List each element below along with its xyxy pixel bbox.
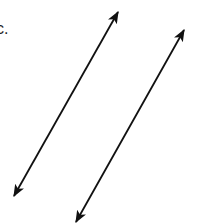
double-arrow-line-1 xyxy=(14,12,118,196)
parallel-lines-diagram xyxy=(0,0,207,224)
